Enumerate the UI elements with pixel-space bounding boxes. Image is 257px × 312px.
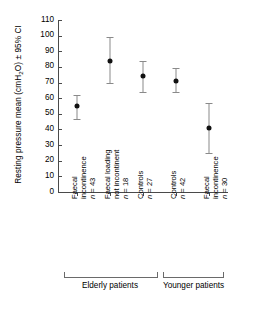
y-tick-mark	[58, 51, 62, 52]
y-tick-label: 50	[32, 109, 54, 117]
chart-container: Resting pressure mean (cmH2O) ± 95% CI 0…	[0, 0, 257, 312]
group-bracket	[163, 272, 224, 278]
y-axis-label-post: O) ± 95% CI	[14, 25, 23, 71]
group-label: Elderly patients	[64, 281, 156, 290]
x-category-sample-size: n = 30	[220, 178, 229, 199]
y-tick-mark	[58, 161, 62, 162]
data-point	[108, 58, 113, 63]
error-bar-cap	[206, 103, 213, 104]
y-tick-mark	[58, 20, 62, 21]
y-tick-mark	[58, 145, 62, 146]
group-bracket	[64, 272, 158, 278]
error-bar-cap	[206, 153, 213, 154]
x-category-sample-size: n = 27	[145, 178, 154, 199]
y-tick-mark	[58, 176, 62, 177]
y-axis-label-pre: Resting pressure mean (cmH	[14, 75, 23, 184]
y-tick-mark	[58, 129, 62, 130]
x-category-label: incontinence	[211, 156, 220, 199]
y-tick-label: 30	[32, 141, 54, 149]
x-category-label: Controls	[169, 171, 178, 199]
y-axis-label: Resting pressure mean (cmH2O) ± 95% CI	[14, 15, 23, 195]
error-bar-cap	[74, 119, 81, 120]
y-tick-label: 80	[32, 62, 54, 70]
x-category-label: Controls	[136, 171, 145, 199]
error-bar-cap	[140, 92, 147, 93]
x-category-label: incontinence	[79, 156, 88, 199]
y-tick-label: 60	[32, 94, 54, 102]
error-bar-cap	[74, 95, 81, 96]
y-tick-mark	[58, 83, 62, 84]
error-bar-cap	[107, 83, 114, 84]
error-bar-cap	[173, 92, 180, 93]
y-tick-mark	[58, 98, 62, 99]
x-category-label: Faecal	[202, 176, 211, 199]
y-axis-line	[58, 20, 59, 192]
y-tick-label: 90	[32, 47, 54, 55]
data-point	[75, 104, 80, 109]
y-tick-label: 110	[32, 16, 54, 24]
y-tick-label: 100	[32, 31, 54, 39]
y-tick-label: 70	[32, 78, 54, 86]
y-tick-label: 0	[32, 188, 54, 196]
x-category-sample-size: n = 43	[88, 178, 97, 199]
y-tick-label: 10	[32, 172, 54, 180]
x-category-label: not incontinent	[112, 150, 121, 199]
error-bar-cap	[140, 61, 147, 62]
y-tick-label: 20	[32, 156, 54, 164]
error-bar-cap	[107, 37, 114, 38]
data-point	[174, 78, 179, 83]
x-category-sample-size: n = 18	[121, 178, 130, 199]
y-axis-label-subscript: 2	[16, 71, 23, 75]
y-tick-mark	[58, 67, 62, 68]
x-category-label: Faecal	[70, 176, 79, 199]
y-tick-mark	[58, 36, 62, 37]
data-point	[207, 125, 212, 130]
error-bar-cap	[173, 68, 180, 69]
group-label: Younger patients	[163, 281, 222, 290]
y-tick-mark	[58, 114, 62, 115]
y-tick-mark	[58, 192, 62, 193]
x-category-label: Faecal loading	[103, 150, 112, 199]
x-category-sample-size: n = 42	[178, 178, 187, 199]
y-tick-label: 40	[32, 125, 54, 133]
data-point	[141, 74, 146, 79]
